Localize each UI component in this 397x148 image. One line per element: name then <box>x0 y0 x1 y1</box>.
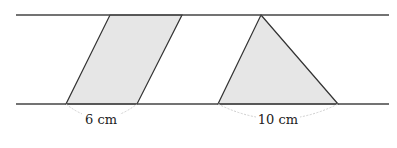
triangle <box>218 15 338 104</box>
parallelogram <box>66 15 182 104</box>
parallelogram-base-label: 6 cm <box>85 112 117 127</box>
triangle-base-label: 10 cm <box>258 112 298 127</box>
diagram-canvas: 6 cm 10 cm <box>0 0 397 148</box>
